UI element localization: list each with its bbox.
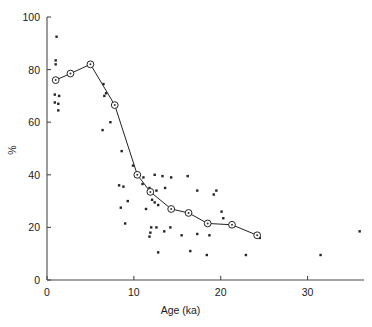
- scatter-dot: [220, 210, 222, 212]
- chart-figure: 0102030020406080100 Age (ka)%: [0, 0, 372, 327]
- scatter-dot: [127, 200, 129, 202]
- trend-polyline: [56, 64, 258, 235]
- trend-marker-center: [55, 79, 57, 81]
- scatter-dot: [122, 185, 124, 187]
- scatter-dot: [54, 63, 56, 65]
- trend-marker-center: [89, 63, 91, 65]
- scatter-dot: [149, 231, 151, 233]
- scatter-dot: [157, 204, 159, 206]
- scatter-dot: [180, 234, 182, 236]
- scatter-dot: [124, 222, 126, 224]
- scatter-dot: [155, 226, 157, 228]
- scatter-dot: [196, 233, 198, 235]
- scatter-dot: [150, 226, 152, 228]
- scatter-dot: [163, 230, 165, 232]
- scatter-dot: [103, 95, 105, 97]
- scatter-dot: [142, 176, 144, 178]
- scatter-dot: [118, 184, 120, 186]
- scatter-dot: [54, 59, 56, 61]
- scatter-dot: [222, 217, 224, 219]
- scatter-dot: [120, 206, 122, 208]
- scatter-dot: [245, 254, 247, 256]
- scatter-dot: [213, 193, 215, 195]
- scatter-dot: [101, 129, 103, 131]
- x-tick-label: 30: [302, 286, 314, 298]
- scatter-dot: [208, 234, 210, 236]
- trend-marker-center: [256, 234, 258, 236]
- y-axis-title: %: [6, 145, 18, 154]
- y-tick-label: 80: [28, 64, 40, 76]
- x-tick-label: 20: [215, 286, 227, 298]
- scatter-dot: [358, 230, 360, 232]
- trend-marker-center: [207, 222, 209, 224]
- scatter-dot: [54, 101, 56, 103]
- scatter-dot: [169, 226, 171, 228]
- scatter-dot: [196, 189, 198, 191]
- y-tick-label: 40: [28, 169, 40, 181]
- scatter-dot: [319, 254, 321, 256]
- trend-marker-center: [69, 73, 71, 75]
- scatter-dot: [161, 175, 163, 177]
- y-tick-label: 20: [28, 221, 40, 233]
- scatter-dot: [148, 235, 150, 237]
- axes: 0102030020406080100: [22, 11, 364, 298]
- scatter-dot: [164, 187, 166, 189]
- trend-marker-center: [170, 208, 172, 210]
- trend-marker-center: [149, 191, 151, 193]
- x-tick-label: 0: [44, 286, 50, 298]
- trend-marker-center: [114, 104, 116, 106]
- scatter-dot: [189, 250, 191, 252]
- scatter-dot: [145, 208, 147, 210]
- scatter-dot: [151, 199, 153, 201]
- scatter-dot: [55, 36, 57, 38]
- scatter-dot: [120, 150, 122, 152]
- trend-marker-center: [188, 212, 190, 214]
- trend-markers: [52, 61, 260, 239]
- scatter-dot: [153, 174, 155, 176]
- scatter-dot: [57, 103, 59, 105]
- scatter-dot: [170, 176, 172, 178]
- x-tick-label: 10: [128, 286, 140, 298]
- trend-marker-center: [136, 174, 138, 176]
- trend-marker-center: [231, 224, 233, 226]
- y-tick-label: 60: [28, 116, 40, 128]
- scatter-dot: [206, 254, 208, 256]
- scatter-dot: [54, 93, 56, 95]
- x-axis-title: Age (ka): [161, 304, 201, 316]
- scatter-dot: [57, 109, 59, 111]
- scatter-dot: [186, 175, 188, 177]
- trend-line: [56, 64, 258, 235]
- scatter-dot: [153, 201, 155, 203]
- scatter-line-plot: 0102030020406080100 Age (ka)%: [0, 0, 372, 327]
- scatter-dot: [157, 251, 159, 253]
- scatter-dot: [109, 121, 111, 123]
- scatter-dot: [215, 189, 217, 191]
- y-tick-label: 0: [34, 274, 40, 286]
- scatter-dot: [155, 189, 157, 191]
- scatter-dot: [58, 95, 60, 97]
- y-tick-label: 100: [22, 11, 40, 23]
